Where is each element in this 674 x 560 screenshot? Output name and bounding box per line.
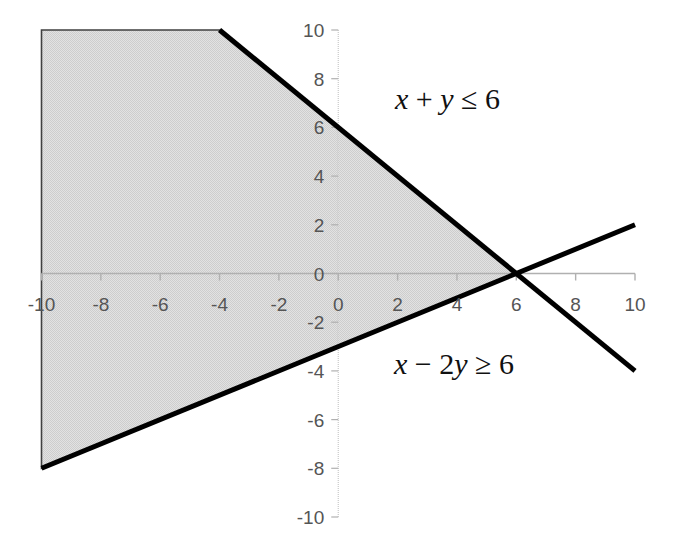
plot-canvas — [0, 0, 674, 560]
y-axis-tick-label: 4 — [314, 167, 325, 186]
inequality-graph: -10-8-6-4-202468101086420-2-4-6-8-10 x +… — [0, 0, 674, 560]
y-axis-tick-label: 6 — [314, 118, 325, 137]
x-axis-tick-label: -4 — [211, 294, 228, 313]
x-axis-tick-label: -2 — [270, 294, 287, 313]
annotation-part: ≤ 6 — [454, 82, 500, 115]
annotation-part: − 2 — [407, 347, 454, 380]
y-axis-tick-label: -2 — [307, 313, 324, 332]
y-axis-ticks — [331, 30, 338, 517]
x-axis-tick-label: 4 — [452, 294, 463, 313]
y-axis-tick-label: -4 — [307, 361, 324, 380]
annotation-part: y — [454, 347, 467, 380]
x-axis-tick-label: 0 — [333, 294, 344, 313]
x-axis-tick-label: -8 — [92, 294, 109, 313]
x-axis-tick-label: -10 — [28, 294, 55, 313]
x-axis-tick-label: 2 — [392, 294, 403, 313]
annotation-part: ≥ 6 — [468, 347, 514, 380]
y-axis-tick-label: 2 — [314, 215, 325, 234]
annotation-part: x — [394, 347, 407, 380]
annotation-part: x — [395, 82, 408, 115]
x-axis-tick-label: -6 — [152, 294, 169, 313]
x-axis-tick-label: 8 — [570, 294, 581, 313]
x-axis-tick-label: 6 — [511, 294, 522, 313]
y-axis-tick-label: -6 — [307, 410, 324, 429]
constraint-annotation: x − 2y ≥ 6 — [394, 349, 514, 379]
y-axis-tick-label: 10 — [303, 21, 324, 40]
y-axis-tick-label: 0 — [314, 264, 325, 283]
y-axis-tick-label: -8 — [307, 459, 324, 478]
y-axis-tick-label: -10 — [297, 508, 324, 527]
constraint-annotation: x + y ≤ 6 — [395, 84, 500, 114]
annotation-part: + — [408, 82, 440, 115]
annotation-part: y — [440, 82, 453, 115]
y-axis-tick-label: 8 — [314, 69, 325, 88]
x-axis-tick-label: 10 — [624, 294, 645, 313]
